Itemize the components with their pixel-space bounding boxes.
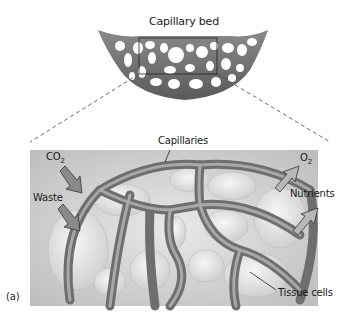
co2-main: CO [46, 151, 60, 162]
o2-main: O [300, 152, 308, 163]
panel-label: (a) [6, 291, 19, 302]
co2-subscript: 2 [60, 157, 64, 165]
o2-label: O2 [300, 152, 312, 163]
zoom-line-left [30, 74, 139, 142]
zoom-line-right [217, 74, 330, 142]
o2-subscript: 2 [308, 158, 312, 166]
tissue-cells-label: Tissue cells [278, 287, 333, 298]
capillary-bed-title: Capillary bed [149, 15, 219, 28]
co2-label: CO2 [46, 151, 65, 162]
nutrients-label: Nutrients [290, 188, 334, 199]
waste-label: Waste [33, 192, 63, 203]
capillaries-label: Capillaries [158, 135, 208, 146]
